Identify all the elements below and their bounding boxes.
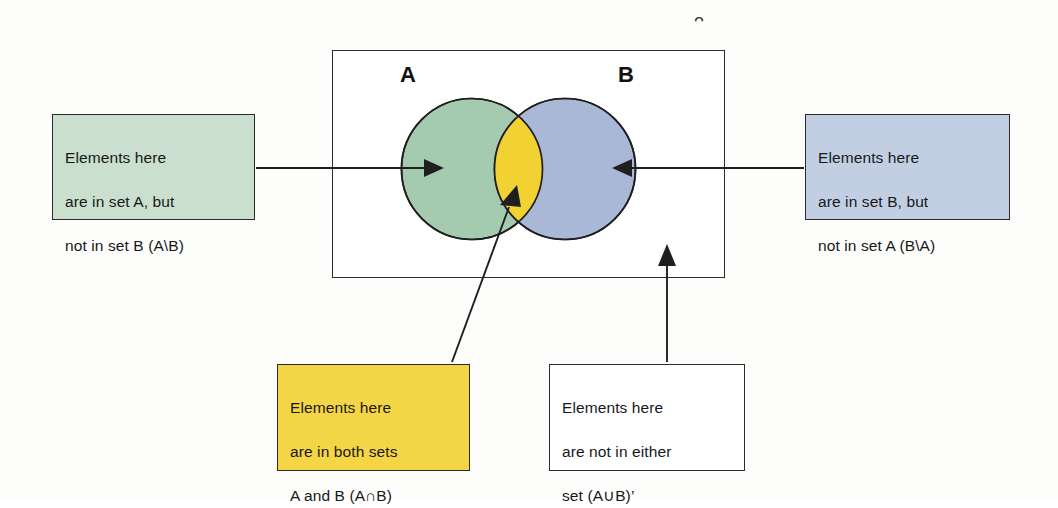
callout-a-only: Elements here are in set A, but not in s…	[52, 114, 255, 220]
callout-b-only: Elements here are in set B, but not in s…	[805, 114, 1010, 220]
callout-a-only-line-1: Elements here	[65, 147, 243, 169]
callout-intersection-line-3: A and B (A∩B)	[290, 485, 458, 507]
callout-intersection: Elements here are in both sets A and B (…	[277, 364, 470, 471]
arrow-head-complement	[658, 244, 676, 266]
callout-intersection-line-2: are in both sets	[290, 441, 458, 463]
callout-intersection-line-1: Elements here	[290, 397, 458, 419]
callout-b-only-line-2: are in set B, but	[818, 191, 998, 213]
callout-complement-line-1: Elements here	[562, 397, 733, 419]
callout-complement-line-3: set (A∪B)’	[562, 485, 733, 507]
callout-complement: Elements here are not in either set (A∪B…	[549, 364, 745, 471]
callout-complement-line-2: are not in either	[562, 441, 733, 463]
callout-a-only-line-2: are in set A, but	[65, 191, 243, 213]
callout-b-only-line-1: Elements here	[818, 147, 998, 169]
callout-b-only-line-3: not in set A (B\A)	[818, 235, 998, 257]
callout-a-only-line-3: not in set B (A\B)	[65, 235, 243, 257]
